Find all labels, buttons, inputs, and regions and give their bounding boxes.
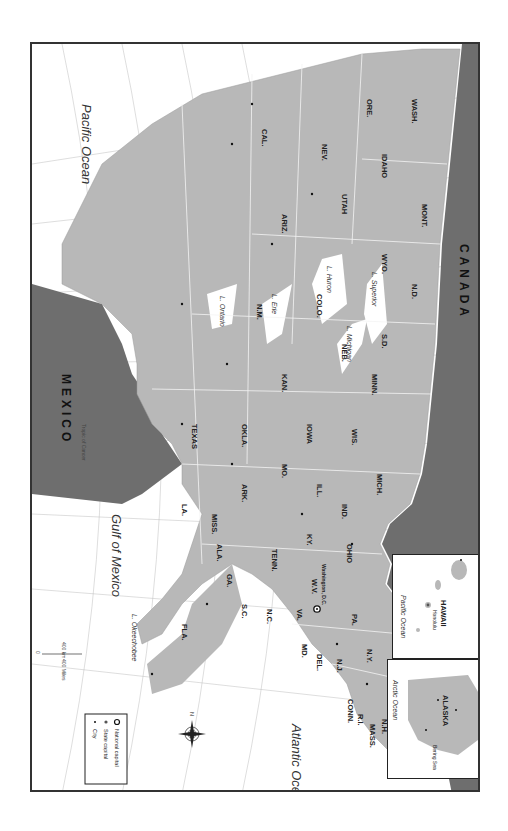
state-label-arkansas: ARK. <box>240 484 249 502</box>
state-label-nebraska: NEB. <box>340 344 349 362</box>
state-label-north-dakota: N.D. <box>410 284 419 299</box>
state-label-wisconsin: WIS. <box>350 429 359 445</box>
tropic-of-cancer-label: Tropic of Cancer <box>81 424 87 461</box>
state-label-delaware: DEL. <box>315 654 324 671</box>
scale-zero-label: 0 <box>35 651 41 654</box>
state-label-wyoming: WYO. <box>380 254 389 274</box>
state-label-colorado: COLO. <box>315 294 324 318</box>
state-label-california: CAL. <box>260 129 269 147</box>
inset-alaska: ALASKA Arctic Ocean Pacific Ocean Bering… <box>387 659 480 779</box>
country-label-canada: CANADA <box>457 244 471 320</box>
state-label-mississippi: MISS. <box>210 514 219 534</box>
state-label-tennessee: TENN. <box>270 549 279 572</box>
alaska-bering-sea-label: Bering Sea <box>432 745 438 770</box>
map-frame: CANADA MEXICO Atlantic Ocean Gulf of Mex… <box>30 42 480 792</box>
country-label-mexico: MEXICO <box>59 374 73 445</box>
hawaii-inset-map: HAWAII Pacific Ocean Honolulu <box>393 555 479 657</box>
state-label-west-virginia: W.V. <box>310 579 319 594</box>
state-label-florida: FLA. <box>180 624 189 641</box>
hawaii-title: HAWAII <box>439 600 448 627</box>
state-label-illinois: ILL. <box>315 484 324 497</box>
hawaii-pacific-ocean-label: Pacific Ocean <box>400 595 407 638</box>
state-label-montana: MONT. <box>420 204 429 227</box>
legend-label-city: City <box>92 729 98 739</box>
water-label-gulf-of-mexico: Gulf of Mexico <box>109 514 124 597</box>
legend-label-national-capital: National capital <box>114 729 120 767</box>
state-label-nevada: NEV. <box>320 144 329 161</box>
legend-state-capital-icon <box>104 720 107 723</box>
state-label-alabama: ALA. <box>215 544 224 562</box>
state-label-minnesota: MINN. <box>370 374 379 395</box>
state-label-connecticut: CONN. <box>346 699 355 723</box>
state-label-utah: UTAH <box>340 194 349 214</box>
state-label-new-mexico: N.M. <box>255 304 264 320</box>
state-label-north-carolina: N.C. <box>265 609 274 624</box>
state-label-missouri: MO. <box>280 464 289 478</box>
state-label-washington: WASH. <box>410 99 419 124</box>
state-label-massachusetts: MASS. <box>368 724 377 748</box>
state-label-new-york: N.Y. <box>365 649 374 663</box>
state-label-texas: TEXAS <box>190 424 199 449</box>
water-label-lake-okeechobee: L. Okeechobee <box>131 614 138 662</box>
city-label-washington-dc: Washington, D.C. <box>321 564 327 606</box>
state-label-oregon: ORE. <box>365 99 374 117</box>
alaska-arctic-ocean-label: Arctic Ocean <box>392 679 399 720</box>
state-label-idaho: IDAHO <box>380 154 389 178</box>
hawaii-honolulu-label: Honolulu <box>432 610 438 630</box>
legend-label-state-capital: State capital <box>103 729 109 759</box>
state-label-kansas: KAN. <box>280 374 289 392</box>
state-label-georgia: GA. <box>225 574 234 587</box>
legend-city-icon <box>94 721 96 723</box>
compass-north-label: N <box>189 712 195 716</box>
state-label-rhode-island: R.I. <box>356 714 365 726</box>
state-label-kentucky: KY. <box>305 534 314 546</box>
state-label-south-dakota: S.D. <box>380 334 389 349</box>
state-label-arizona: ARIZ. <box>280 214 289 234</box>
state-label-virginia: VA. <box>295 609 304 621</box>
legend-national-capital-icon <box>115 720 120 725</box>
state-label-south-carolina: S.C. <box>240 604 249 619</box>
water-label-atlantic: Atlantic Ocean <box>289 723 304 792</box>
state-label-ohio: OHIO <box>345 544 354 563</box>
alaska-inset-map: ALASKA Arctic Ocean Pacific Ocean Bering… <box>388 660 480 777</box>
alaska-title: ALASKA <box>441 695 450 727</box>
water-label-lake-ontario: L. Ontario <box>219 296 226 327</box>
state-label-louisiana: LA. <box>180 504 189 516</box>
scale-km-label: 400 km <box>61 642 67 658</box>
state-label-oklahoma: OKLA. <box>240 424 249 447</box>
state-label-maryland: MD. <box>300 644 309 658</box>
water-label-lake-huron: L. Huron <box>326 266 333 293</box>
water-label-pacific: Pacific Ocean <box>79 104 94 184</box>
legend: National capital State capital City <box>85 714 127 784</box>
hawaii-big-island <box>451 560 467 580</box>
water-label-lake-superior: L. Superior <box>370 272 378 307</box>
state-label-indiana: IND. <box>340 504 349 519</box>
inset-hawaii: HAWAII Pacific Ocean Honolulu <box>392 554 480 659</box>
state-label-new-jersey: N.J. <box>335 659 344 673</box>
state-label-pennsylvania: PA. <box>350 614 359 626</box>
state-label-michigan: MICH. <box>375 474 384 495</box>
scale-miles-label: 400 Miles <box>61 659 67 681</box>
water-label-lake-erie: L. Erie <box>271 294 278 314</box>
state-label-iowa: IOWA <box>305 424 314 445</box>
